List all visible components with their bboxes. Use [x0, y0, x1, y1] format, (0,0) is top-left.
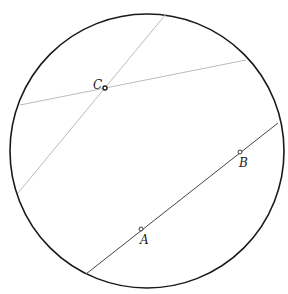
label-a: A	[139, 233, 149, 247]
line-c-horizontal	[20, 60, 246, 105]
point-a	[139, 227, 143, 231]
line-c-diagonal	[18, 14, 166, 193]
figure-svg: C A B	[0, 0, 288, 294]
point-c	[103, 86, 107, 90]
label-c: C	[93, 78, 102, 92]
line-ab	[86, 123, 278, 274]
geometry-figure: C A B	[0, 0, 288, 294]
point-b	[238, 150, 242, 154]
label-b: B	[238, 156, 248, 170]
